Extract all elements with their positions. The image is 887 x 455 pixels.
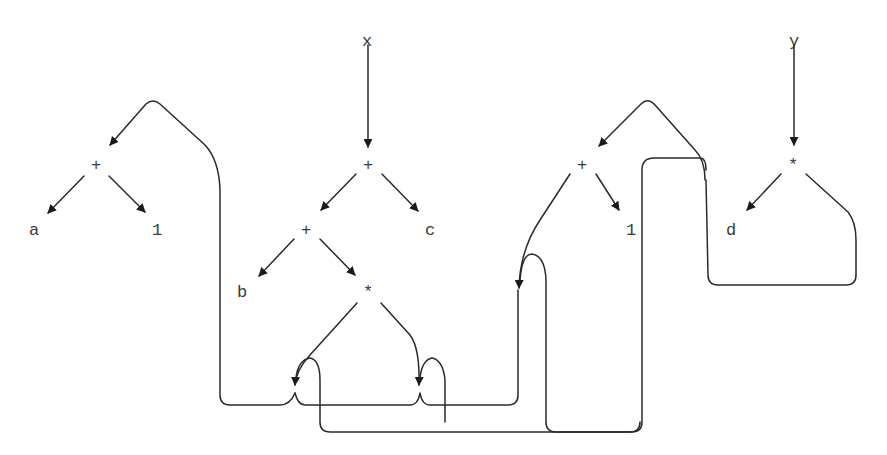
edge-shared-arc-into-plus-12 xyxy=(599,101,705,180)
node-b-label: b xyxy=(237,283,247,302)
edge-stary-to-d xyxy=(747,174,781,210)
edge-star1-left-loop xyxy=(296,358,640,432)
node-plus-b-label: + xyxy=(301,221,311,240)
node-star-y-label: * xyxy=(788,156,798,175)
edge-plus12-left-loop xyxy=(520,158,706,432)
edge-shared-arc-into-plus-a1 xyxy=(110,101,295,405)
edge-star1-right-operand xyxy=(381,303,419,385)
edge-bottom-line-upper xyxy=(295,290,518,405)
expression-dag-diagram: x y + a 1 + + c b * + 1 * d xyxy=(0,0,887,455)
edge-plus-to-a xyxy=(48,176,84,213)
node-one-1-label: 1 xyxy=(152,221,162,240)
edge-star1-right-loop xyxy=(420,358,445,422)
node-a-label: a xyxy=(29,221,39,240)
edge-star1-left-operand xyxy=(295,303,357,385)
node-x-label: x xyxy=(362,32,372,51)
node-c-label: c xyxy=(425,221,435,240)
edge-plusx-to-plusb xyxy=(321,174,356,210)
node-plus-x-label: + xyxy=(363,156,373,175)
edge-plus-to-one xyxy=(109,176,145,212)
edge-plusb-to-b xyxy=(259,239,294,276)
edge-plusb-to-star xyxy=(320,239,355,275)
node-plus-12-label: + xyxy=(577,156,587,175)
node-d-label: d xyxy=(726,221,736,240)
node-star-1-label: * xyxy=(363,283,373,302)
edge-plus12-to-one xyxy=(596,174,619,210)
node-plus-a1-label: + xyxy=(91,156,101,175)
edge-plusx-to-c xyxy=(382,174,418,211)
node-one-2-label: 1 xyxy=(626,221,636,240)
